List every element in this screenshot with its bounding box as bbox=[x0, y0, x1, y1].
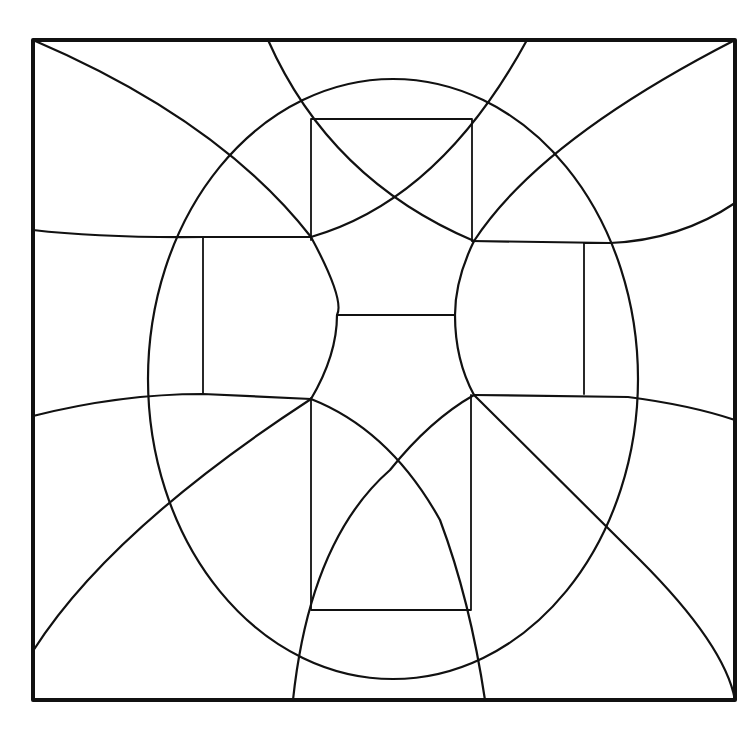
diagonal-arc-top-left bbox=[33, 40, 311, 237]
top-rectangle bbox=[311, 119, 472, 240]
lower-right-band bbox=[474, 395, 735, 420]
diagonal-arc-top-right bbox=[474, 40, 735, 241]
central-ellipse bbox=[148, 79, 638, 679]
outer-frame bbox=[33, 40, 735, 700]
lower-left-band bbox=[33, 394, 311, 416]
geometric-figure bbox=[0, 0, 754, 729]
bottom-arch-left bbox=[293, 395, 474, 700]
left-waist-curve bbox=[311, 237, 339, 399]
bottom-rectangle bbox=[311, 395, 471, 610]
top-arch-right bbox=[311, 40, 527, 237]
right-waist-curve bbox=[455, 241, 474, 395]
diagonal-arc-bottom-left bbox=[33, 399, 311, 651]
upper-left-band bbox=[33, 230, 311, 237]
bottom-arch-right bbox=[311, 399, 485, 700]
diagonal-arc-bottom-right bbox=[474, 395, 735, 700]
